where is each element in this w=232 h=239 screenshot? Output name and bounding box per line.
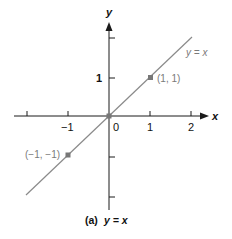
point-neg1-neg1 xyxy=(66,153,71,158)
y-axis-label: y xyxy=(105,6,113,18)
caption-prefix: (a) xyxy=(85,214,98,226)
tick-label-x-0: 0 xyxy=(113,121,119,133)
y-axis-arrow-icon xyxy=(106,22,113,31)
tick-label-x-neg1: −1 xyxy=(61,121,74,133)
line-label: y = x xyxy=(185,47,208,58)
tick-label-x-2: 2 xyxy=(188,121,194,133)
point-origin xyxy=(107,114,112,119)
point-label-1-1: (1, 1) xyxy=(157,73,180,84)
x-axis-arrow-icon xyxy=(200,113,209,120)
x-axis-label: x xyxy=(211,110,219,122)
caption-equation: y = x xyxy=(103,214,129,226)
tick-label-x-1: 1 xyxy=(147,121,153,133)
point-1-1 xyxy=(148,75,153,80)
point-label-neg1-neg1: (−1, −1) xyxy=(25,149,60,160)
chart-canvas: y x −1 0 1 2 1 y = x (1, 1) (−1, −1) (a)… xyxy=(0,0,232,239)
tick-label-y-1: 1 xyxy=(96,72,102,84)
